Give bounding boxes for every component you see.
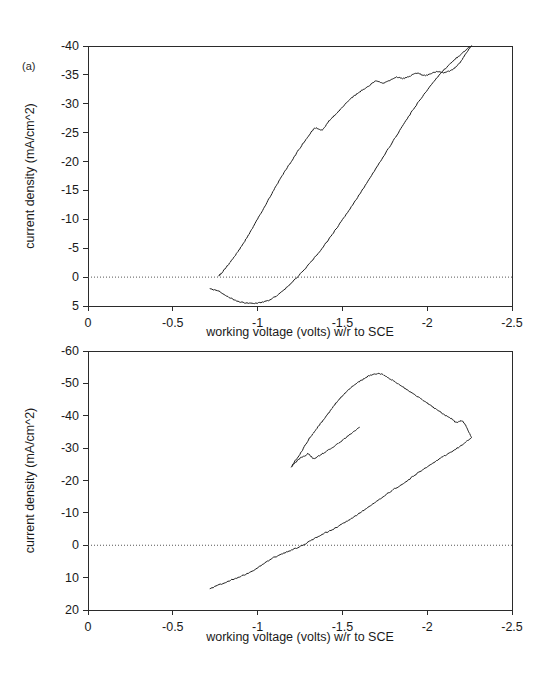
y-axis-tick-label: -50 — [61, 376, 79, 390]
plot-frame — [88, 351, 512, 610]
y-axis-tick-label: 5 — [72, 299, 79, 313]
y-axis-tick-label: -30 — [61, 97, 79, 111]
y-axis-tick-label: -10 — [61, 506, 79, 520]
x-axis-tick-label: -2 — [422, 620, 433, 634]
data-curve-reverse-sweep — [292, 373, 472, 467]
chart-a-svg: -40-35-30-25-20-15-10-5050-0.5-1-1.5-2-2… — [0, 0, 548, 340]
y-axis-tick-label: -40 — [61, 409, 79, 423]
x-axis-tick-label: 0 — [85, 620, 92, 634]
y-axis-title: current density (mA/cm^2) — [23, 408, 37, 553]
y-axis-tick-label: -20 — [61, 474, 79, 488]
chart-panel-b: (b) -60-50-40-30-20-10010200-0.5-1-1.5-2… — [0, 330, 548, 678]
y-axis-tick-label: -25 — [61, 126, 79, 140]
y-axis-tick-label: -60 — [61, 344, 79, 358]
plot-frame — [88, 46, 512, 306]
x-axis-tick-label: -0.5 — [162, 316, 184, 330]
y-axis-tick-label: -10 — [61, 212, 79, 226]
x-axis-tick-label: -0.5 — [162, 620, 184, 634]
data-curve-reverse-sweep-lower-branch — [292, 427, 360, 466]
x-axis-title: working voltage (volts) w/r to SCE — [205, 630, 394, 644]
y-axis-tick-label: -15 — [61, 183, 79, 197]
figure-container: (a) -40-35-30-25-20-15-10-5050-0.5-1-1.5… — [0, 0, 548, 678]
chart-panel-a: (a) -40-35-30-25-20-15-10-5050-0.5-1-1.5… — [0, 0, 548, 340]
y-axis-tick-label: -40 — [61, 39, 79, 53]
x-axis-tick-label: 0 — [85, 316, 92, 330]
chart-b-svg: -60-50-40-30-20-10010200-0.5-1-1.5-2-2.5… — [0, 330, 548, 678]
x-axis-tick-label: -2.5 — [501, 316, 523, 330]
x-axis-tick-label: -2 — [422, 316, 433, 330]
panel-a-label: (a) — [22, 60, 35, 72]
y-axis-title: current density (mA/cm^2) — [23, 103, 37, 248]
data-curve-reverse-sweep — [219, 46, 472, 276]
y-axis-tick-label: -20 — [61, 155, 79, 169]
y-axis-tick-label: -5 — [68, 241, 79, 255]
data-curve-forward-sweep — [210, 46, 471, 304]
y-axis-tick-label: 10 — [65, 571, 79, 585]
y-axis-tick-label: 0 — [72, 270, 79, 284]
y-axis-tick-label: 20 — [65, 603, 79, 617]
y-axis-tick-label: 0 — [72, 538, 79, 552]
data-curve-forward-sweep — [210, 438, 471, 589]
y-axis-tick-label: -35 — [61, 68, 79, 82]
x-axis-tick-label: -2.5 — [501, 620, 523, 634]
y-axis-tick-label: -30 — [61, 441, 79, 455]
